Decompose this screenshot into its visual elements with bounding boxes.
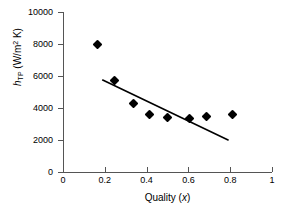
x-axis-title: Quality (x) [63, 192, 272, 203]
x-axis-title-close: ) [187, 192, 190, 203]
y-axis-title-units-close: K) [12, 28, 23, 41]
y-axis-tick [58, 76, 63, 77]
x-axis-tick-label: 0.2 [90, 176, 120, 185]
y-axis-title: hTP (W/m2 K) [10, 0, 26, 137]
x-axis-tick [272, 167, 273, 172]
y-axis-tick-label: 8000 [0, 40, 53, 49]
y-axis-tick-label: 6000 [0, 72, 53, 81]
y-axis-tick-label: 10000 [0, 8, 53, 17]
x-axis-tick-label: 0.4 [132, 176, 162, 185]
x-axis-tick-label: 0.8 [215, 176, 245, 185]
y-axis-title-variable: h [12, 80, 23, 86]
y-axis-tick-label: 2000 [0, 136, 53, 145]
y-axis-tick-label: 0 [0, 168, 53, 177]
x-axis-tick-label: 0.6 [173, 176, 203, 185]
y-axis-tick [58, 140, 63, 141]
trend-line [63, 12, 272, 172]
x-axis-tick [147, 167, 148, 172]
y-axis-tick-label: 4000 [0, 104, 53, 113]
y-axis-tick [58, 172, 63, 173]
y-axis-tick [58, 12, 63, 13]
plot-area [63, 12, 272, 172]
y-axis-line [63, 12, 64, 173]
x-axis-tick-label: 0 [48, 176, 78, 185]
y-axis-tick [58, 108, 63, 109]
y-axis-tick [58, 44, 63, 45]
x-axis-tick [63, 167, 64, 172]
x-axis-tick [230, 167, 231, 172]
x-axis-tick-label: 1 [257, 176, 287, 185]
x-axis-tick [105, 167, 106, 172]
x-axis-tick [188, 167, 189, 172]
chart-figure: hTP (W/m2 K) Quality (x) 020004000600080… [0, 0, 294, 213]
x-axis-line [63, 172, 272, 173]
x-axis-title-main: Quality ( [145, 192, 182, 203]
